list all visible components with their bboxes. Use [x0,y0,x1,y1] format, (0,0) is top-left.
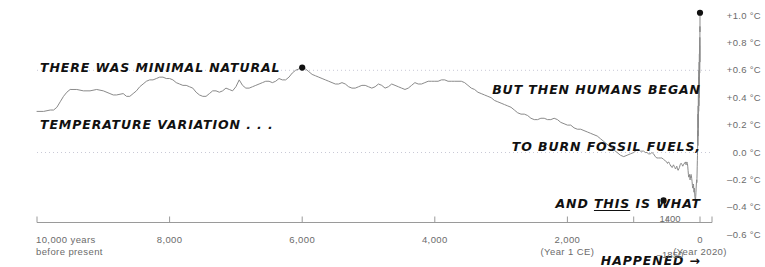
temperature-chart: THERE WAS MINIMAL NATURAL TEMPERATURE VA… [0,0,765,267]
y-tick-label-2: +0.6 °C [703,64,761,75]
annotation-left: THERE WAS MINIMAL NATURAL TEMPERATURE VA… [40,20,280,172]
y-tick-label-6: –0.2 °C [703,174,761,185]
x-tick-label-5: 0(Year 2020) [640,234,760,258]
x-tick-label-1: 8,000 [110,234,230,246]
x-tick-label-5-line2: (Year 2020) [640,246,760,258]
x-tick-label-2-line1: 6,000 [242,234,362,246]
x-tick-label-3: 4,000 [375,234,495,246]
y-tick-label-0: +1.0 °C [703,10,761,21]
y-tick-label-5: 0.0 °C [703,147,761,158]
x-tick-label-5-line1: 0 [640,234,760,246]
annotation-emphasis-this: THIS [594,196,630,211]
x-tick-label-0-line2: before present [36,246,156,258]
marker-label-line1: 1400 [648,213,692,225]
x-tick-label-1-line1: 8,000 [110,234,230,246]
annotation-right-line3-pre: AND [555,196,593,211]
x-tick-label-4-line1: 2,000 [507,234,627,246]
y-tick-label-1: +0.8 °C [703,37,761,48]
annotation-right-line2: TO BURN FOSSIL FUELS, [492,137,701,156]
annotation-right-line1: BUT THEN HUMANS BEGAN [492,80,701,99]
annotation-left-line1: THERE WAS MINIMAL NATURAL [40,58,280,77]
annotation-left-line2: TEMPERATURE VARIATION . . . [40,115,280,134]
y-tick-label-3: +0.4 °C [703,92,761,103]
y-tick-label-7: –0.4 °C [703,201,761,212]
y-tick-label-4: +0.2 °C [703,119,761,130]
x-tick-label-4: 2,000(Year 1 CE) [507,234,627,258]
x-tick-label-2: 6,000 [242,234,362,246]
x-tick-label-3-line1: 4,000 [375,234,495,246]
x-tick-label-4-line2: (Year 1 CE) [507,246,627,258]
